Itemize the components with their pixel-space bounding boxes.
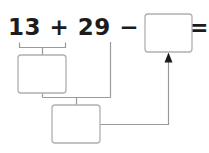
answer-box-partial-sum[interactable] (18, 55, 66, 93)
math-worksheet-canvas: 13 + 29 − 15 = (0, 0, 209, 153)
brace-joining-first-box-and-subtrahend (43, 93, 111, 105)
diagram-connectors-and-boxes (0, 0, 209, 153)
brace-under-first-sum (20, 43, 66, 56)
answer-box-partial-difference[interactable] (52, 105, 100, 143)
answer-box-final-answer[interactable] (145, 14, 192, 52)
arrowhead-icon (165, 53, 173, 63)
